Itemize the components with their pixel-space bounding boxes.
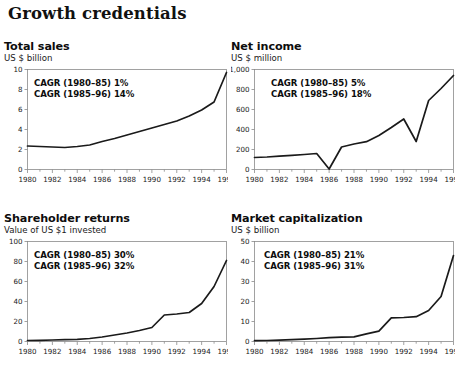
svg-text:50: 50 [240, 237, 250, 246]
svg-text:400: 400 [236, 125, 250, 134]
svg-text:1990: 1990 [143, 175, 162, 184]
svg-text:1992: 1992 [168, 175, 186, 184]
svg-text:600: 600 [236, 105, 250, 114]
svg-text:1980: 1980 [245, 175, 264, 184]
svg-text:1984: 1984 [295, 175, 314, 184]
chart-panel-market-capitalization: Market capitalization US $ billion 01020… [231, 212, 455, 367]
plot-area: 0204060801001980198219841986198819901992… [4, 237, 228, 363]
svg-text:1990: 1990 [370, 175, 389, 184]
svg-text:1992: 1992 [395, 347, 413, 356]
svg-text:800: 800 [236, 85, 250, 94]
page-title: Growth credentials [8, 4, 187, 23]
chart-title: Net income [231, 40, 455, 53]
chart-title: Total sales [4, 40, 228, 53]
svg-text:20: 20 [240, 297, 250, 306]
chart-panel-net-income: Net income US $ million 02004006008001,0… [231, 40, 455, 195]
svg-text:1984: 1984 [68, 175, 87, 184]
svg-text:1990: 1990 [370, 347, 389, 356]
chart-panel-total-sales: Total sales US $ billion 024681019801982… [4, 40, 228, 195]
svg-text:1986: 1986 [320, 175, 339, 184]
svg-text:1980: 1980 [18, 175, 37, 184]
svg-text:1982: 1982 [43, 175, 61, 184]
svg-text:1992: 1992 [395, 175, 413, 184]
svg-text:0: 0 [245, 165, 250, 174]
svg-text:1994: 1994 [420, 175, 439, 184]
plot-area: 0246810198019821984198619881990199219941… [4, 65, 228, 191]
chart-title: Market capitalization [231, 212, 455, 225]
svg-text:0: 0 [18, 165, 23, 174]
svg-text:2: 2 [18, 145, 23, 154]
svg-text:1980: 1980 [245, 347, 264, 356]
svg-text:100: 100 [9, 237, 23, 246]
svg-text:1982: 1982 [43, 347, 61, 356]
svg-text:1988: 1988 [345, 175, 364, 184]
svg-text:1990: 1990 [143, 347, 162, 356]
svg-text:1982: 1982 [270, 347, 288, 356]
svg-text:1992: 1992 [168, 347, 186, 356]
svg-text:1980: 1980 [18, 347, 37, 356]
chart-panel-shareholder-returns: Shareholder returns Value of US $1 inves… [4, 212, 228, 367]
svg-text:0: 0 [245, 337, 250, 346]
svg-text:0: 0 [18, 337, 23, 346]
svg-text:1996: 1996 [217, 347, 228, 356]
chart-subtitle: Value of US $1 invested [4, 225, 228, 236]
chart-title: Shareholder returns [4, 212, 228, 225]
svg-text:1996: 1996 [444, 175, 455, 184]
svg-text:1988: 1988 [345, 347, 364, 356]
svg-text:1988: 1988 [118, 175, 137, 184]
svg-text:1996: 1996 [217, 175, 228, 184]
line-chart-svg: 0102030405019801982198419861988199019921… [231, 237, 455, 363]
svg-text:200: 200 [236, 145, 250, 154]
svg-text:1986: 1986 [93, 175, 112, 184]
svg-text:1994: 1994 [193, 175, 212, 184]
line-chart-svg: 0246810198019821984198619881990199219941… [4, 65, 228, 191]
svg-text:1984: 1984 [295, 347, 314, 356]
plot-area: 02004006008001,0001980198219841986198819… [231, 65, 455, 191]
plot-area: 0102030405019801982198419861988199019921… [231, 237, 455, 363]
svg-text:1988: 1988 [118, 347, 137, 356]
svg-text:1986: 1986 [320, 347, 339, 356]
svg-text:10: 10 [240, 317, 250, 326]
svg-text:1,000: 1,000 [231, 65, 250, 74]
svg-text:40: 40 [13, 297, 23, 306]
line-chart-svg: 0204060801001980198219841986198819901992… [4, 237, 228, 363]
svg-text:4: 4 [18, 125, 23, 134]
svg-text:6: 6 [18, 105, 23, 114]
svg-text:1984: 1984 [68, 347, 87, 356]
svg-text:30: 30 [240, 277, 250, 286]
svg-text:10: 10 [13, 65, 23, 74]
svg-text:80: 80 [13, 257, 23, 266]
line-chart-svg: 02004006008001,0001980198219841986198819… [231, 65, 455, 191]
chart-subtitle: US $ billion [4, 53, 228, 64]
chart-subtitle: US $ million [231, 53, 455, 64]
chart-subtitle: US $ billion [231, 225, 455, 236]
svg-text:20: 20 [13, 317, 23, 326]
svg-text:1982: 1982 [270, 175, 288, 184]
svg-text:8: 8 [18, 85, 23, 94]
svg-text:1986: 1986 [93, 347, 112, 356]
svg-text:1994: 1994 [420, 347, 439, 356]
svg-text:60: 60 [13, 277, 23, 286]
svg-text:1996: 1996 [444, 347, 455, 356]
svg-text:40: 40 [240, 257, 250, 266]
svg-text:1994: 1994 [193, 347, 212, 356]
